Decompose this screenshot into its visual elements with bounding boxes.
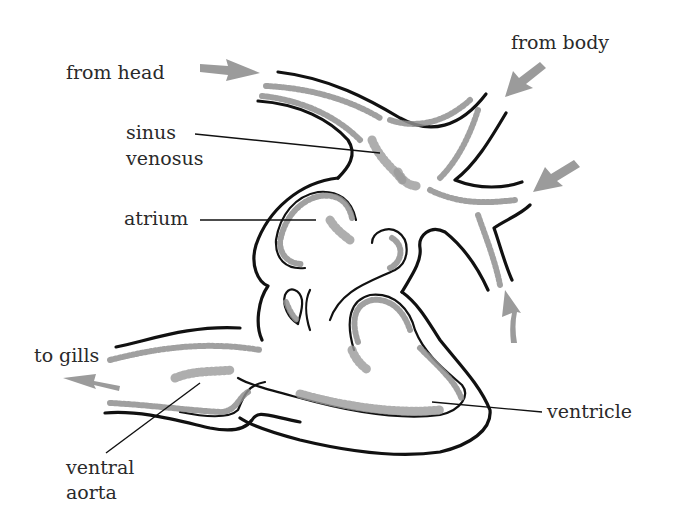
label-from-body: from body bbox=[511, 30, 609, 54]
to-gills-arrow-icon bbox=[63, 374, 120, 391]
label-from-head: from head bbox=[66, 60, 165, 84]
label-to-gills: to gills bbox=[34, 343, 99, 367]
label-ventral: ventral bbox=[66, 455, 134, 479]
label-sinus: sinus bbox=[126, 120, 176, 144]
from-head-arrow-icon bbox=[200, 59, 260, 81]
ventral-aorta-leader bbox=[106, 383, 200, 453]
from-body-arrow-bottom-icon bbox=[502, 290, 521, 343]
sinus-venosus-leader bbox=[195, 134, 380, 153]
label-aorta: aorta bbox=[66, 480, 117, 504]
from-body-arrow-top-icon bbox=[505, 62, 546, 97]
label-atrium: atrium bbox=[124, 206, 188, 230]
label-ventricle: ventricle bbox=[547, 399, 632, 423]
from-body-arrow-middle-icon bbox=[533, 160, 580, 192]
label-venosus: venosus bbox=[126, 146, 203, 170]
